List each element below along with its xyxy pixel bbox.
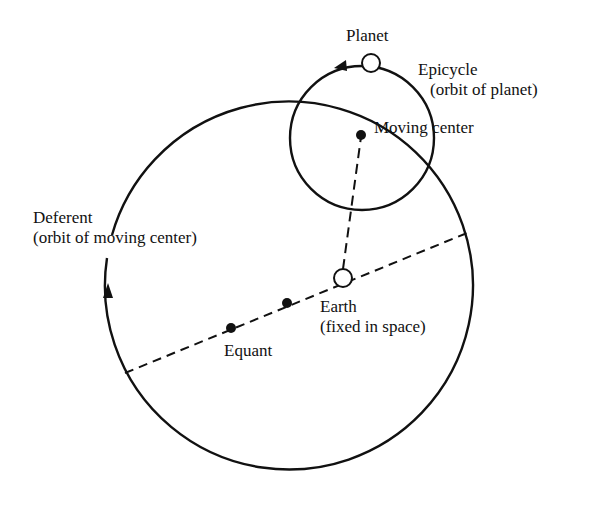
epicycle-direction-arrow bbox=[334, 60, 347, 71]
deferent-circle bbox=[105, 102, 473, 470]
deferent-label: Deferent bbox=[33, 208, 92, 228]
epicycle-sublabel: (orbit of planet) bbox=[430, 80, 538, 100]
apsidal-line bbox=[125, 233, 467, 373]
moving-center-dot bbox=[356, 130, 366, 140]
planet-marker bbox=[362, 54, 380, 72]
earth-marker bbox=[334, 269, 352, 287]
epicycle-label: Epicycle bbox=[418, 60, 477, 80]
earth-sublabel: (fixed in space) bbox=[320, 317, 426, 337]
deferent-sublabel: (orbit of moving center) bbox=[33, 228, 197, 248]
moving-center-label: Moving center bbox=[374, 118, 474, 138]
equant-label: Equant bbox=[224, 341, 272, 361]
earth-to-center-line bbox=[343, 137, 361, 269]
earth-label: Earth bbox=[320, 297, 357, 317]
equant-dot bbox=[226, 323, 236, 333]
deferent-center-dot bbox=[282, 298, 292, 308]
planet-label: Planet bbox=[346, 26, 389, 46]
epicycle-diagram bbox=[0, 0, 602, 522]
